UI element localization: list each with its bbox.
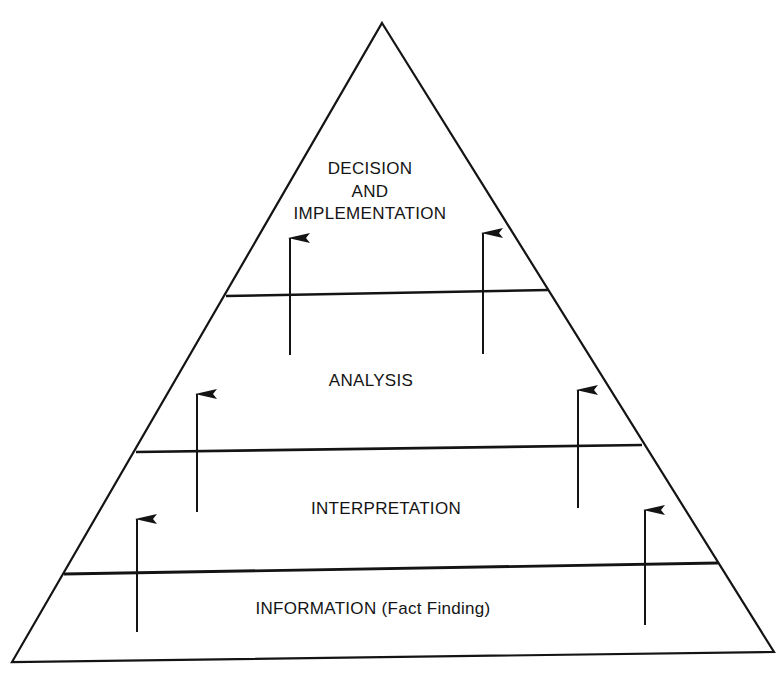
pyramid-outline: [12, 23, 774, 662]
level-information-label: INFORMATION (Fact Finding): [255, 599, 490, 618]
pyramid-diagram: DECISION AND IMPLEMENTATION ANALYSIS INT…: [0, 0, 776, 674]
label-line: AND: [352, 182, 389, 201]
divider-decision-analysis: [226, 290, 548, 296]
level-decision-label: DECISION AND IMPLEMENTATION: [294, 159, 447, 223]
level-analysis-label: ANALYSIS: [329, 371, 413, 390]
label-line: DECISION: [328, 159, 413, 178]
divider-interpretation-information: [64, 563, 718, 574]
label-line: IMPLEMENTATION: [294, 204, 447, 223]
level-interpretation-label: INTERPRETATION: [311, 499, 461, 518]
divider-analysis-interpretation: [136, 445, 642, 452]
